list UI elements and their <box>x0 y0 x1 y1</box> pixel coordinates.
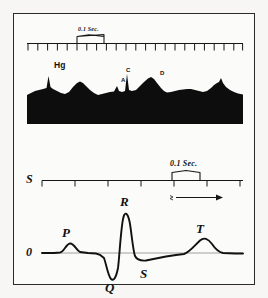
plate-frame <box>13 13 255 285</box>
q-wave-label: Q <box>105 281 114 294</box>
t-wave-label: T <box>196 222 204 235</box>
p-wave-label: P <box>62 226 70 239</box>
axis-label-s: S <box>26 173 33 185</box>
lower-scale-label: 0.1 Sec. <box>170 160 197 168</box>
pressure-unit-label: Hg <box>54 61 65 70</box>
d-wave-label: D <box>160 70 164 76</box>
figure-root: 0.1 Sec. Hg A C D S 0 <box>0 0 268 298</box>
a-wave-label: A <box>121 77 125 83</box>
r-wave-label: R <box>120 195 129 208</box>
s-wave-label: S <box>140 267 147 280</box>
upper-scale-label: 0.1 Sec. <box>78 26 99 32</box>
c-wave-label: C <box>126 67 130 73</box>
axis-label-zero: 0 <box>26 246 32 258</box>
